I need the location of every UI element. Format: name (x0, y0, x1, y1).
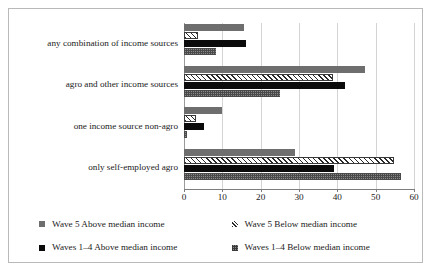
bar-agro-other-waves14-below (184, 90, 280, 97)
category-group-3: only self-employed agro (184, 148, 414, 190)
bar-one-source-nonagro-wave5-below (184, 115, 196, 122)
bar-only-self-employed-agro-waves14-below (184, 173, 401, 180)
bar-agro-other-waves14-above (184, 82, 345, 89)
category-label-1: agro and other income sources (66, 81, 178, 90)
legend-swatch-icon-solid-gray (39, 221, 45, 227)
bar-agro-other-wave5-above (184, 66, 365, 73)
category-group-2: one income source non-agro (184, 106, 414, 148)
bar-only-self-employed-agro-waves14-above (184, 165, 334, 172)
category-label-0: any combination of income sources (47, 39, 178, 48)
x-axis: 0102030405060 (184, 189, 414, 207)
chart-frame: any combination of income sources agro a… (8, 8, 423, 263)
bar-any-combination-waves14-above (184, 40, 246, 47)
bar-only-self-employed-agro-wave5-above (184, 149, 295, 156)
category-label-3: only self-employed agro (88, 164, 178, 173)
x-tick-label-30: 30 (294, 193, 303, 202)
legend-label-waves14-above: Waves 1–4 Above median income (52, 243, 177, 252)
bar-agro-other-wave5-below (184, 74, 333, 81)
legend-label-wave5-above: Wave 5 Above median income (52, 220, 165, 229)
bar-one-source-nonagro-waves14-above (184, 123, 204, 130)
bar-any-combination-wave5-below (184, 32, 198, 39)
legend-swatch-icon-checker (232, 245, 238, 251)
legend-item-wave5-below: Wave 5 Below median income (232, 220, 415, 229)
bar-one-source-nonagro-wave5-above (184, 107, 222, 114)
legend-label-waves14-below: Waves 1–4 Below median income (245, 243, 370, 252)
legend-item-waves14-below: Waves 1–4 Below median income (232, 243, 415, 252)
x-tick-label-50: 50 (371, 193, 380, 202)
legend-swatch-icon-solid-black (39, 245, 45, 251)
x-tick-label-60: 60 (409, 193, 418, 202)
category-group-0: any combination of income sources (184, 23, 414, 65)
chart-figure: any combination of income sources agro a… (0, 0, 433, 273)
category-label-2: one income source non-agro (74, 122, 178, 131)
x-tick-label-10: 10 (218, 193, 227, 202)
gridline-60 (414, 23, 415, 189)
plot-area: any combination of income sources agro a… (184, 23, 414, 189)
bar-any-combination-wave5-above (184, 24, 244, 31)
x-tick-label-20: 20 (256, 193, 265, 202)
x-tick-label-40: 40 (333, 193, 342, 202)
chart-legend: Wave 5 Above median income Wave 5 Below … (39, 215, 414, 257)
category-group-1: agro and other income sources (184, 65, 414, 107)
legend-label-wave5-below: Wave 5 Below median income (245, 220, 358, 229)
bar-only-self-employed-agro-wave5-below (184, 157, 394, 164)
bar-any-combination-waves14-below (184, 48, 216, 55)
legend-swatch-icon-diagonal-hatch (232, 221, 238, 227)
bar-one-source-nonagro-waves14-below (184, 131, 187, 138)
legend-item-waves14-above: Waves 1–4 Above median income (39, 243, 222, 252)
x-tick-label-0: 0 (182, 193, 187, 202)
legend-item-wave5-above: Wave 5 Above median income (39, 220, 222, 229)
